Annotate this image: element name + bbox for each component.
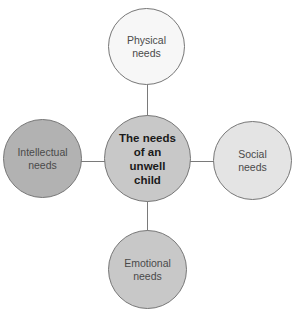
node-physical-needs-label: Physical needs: [127, 34, 166, 60]
node-intellectual-needs-label: Intellectual needs: [17, 146, 67, 172]
node-social-needs: Social needs: [213, 121, 292, 200]
connector-left: [80, 161, 105, 162]
connector-bottom: [147, 200, 148, 231]
node-emotional-needs: Emotional needs: [108, 230, 187, 309]
connector-right: [189, 161, 214, 162]
connector-top: [147, 85, 148, 116]
node-center-unwell-child: The needs of an unwell child: [104, 115, 191, 202]
node-social-needs-label: Social needs: [238, 148, 267, 174]
node-emotional-needs-label: Emotional needs: [124, 257, 171, 283]
node-intellectual-needs: Intellectual needs: [3, 119, 82, 198]
node-physical-needs: Physical needs: [108, 8, 185, 85]
node-center-label: The needs of an unwell child: [119, 131, 176, 187]
needs-diagram: Physical needs Intellectual needs The ne…: [0, 0, 296, 314]
